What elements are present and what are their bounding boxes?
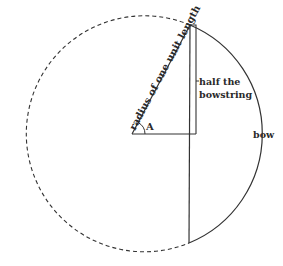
- bow-arc: [189, 25, 262, 243]
- angle-label: A: [145, 121, 154, 132]
- bow-label: bow: [253, 129, 275, 140]
- half-bowstring-bracket: [190, 25, 196, 134]
- half-bowstring-label-line2: bowstring: [199, 89, 252, 100]
- bow-and-bowstring-diagram: radius of one unit length A half the bow…: [0, 0, 283, 266]
- half-bowstring-label-line1: half the: [199, 76, 240, 87]
- radius-label: radius of one unit length: [127, 3, 203, 132]
